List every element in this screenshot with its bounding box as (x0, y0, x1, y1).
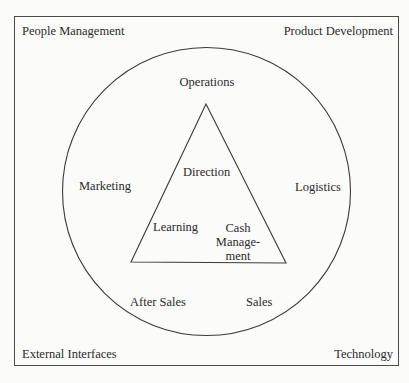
inner-triangle (131, 104, 286, 263)
corner-label-people-management: People Management (22, 24, 124, 38)
corner-label-technology: Technology (334, 347, 393, 361)
triangle-label-cash-management: Cash Manage- ment (216, 221, 260, 263)
triangle-label-learning: Learning (153, 220, 198, 234)
circle-label-sales: Sales (246, 295, 272, 309)
cash-management-line-2: Manage- (216, 235, 260, 249)
cash-management-line-1: Cash (216, 221, 260, 235)
circle-label-logistics: Logistics (295, 180, 341, 194)
circle-label-after-sales: After Sales (130, 295, 186, 309)
triangle-label-direction: Direction (183, 165, 230, 179)
circle-label-marketing: Marketing (79, 179, 131, 193)
diagram-shapes (0, 0, 409, 383)
cash-management-line-3: ment (216, 249, 260, 263)
corner-label-product-development: Product Development (284, 24, 393, 38)
corner-label-external-interfaces: External Interfaces (22, 347, 117, 361)
circle-label-operations: Operations (180, 75, 235, 89)
